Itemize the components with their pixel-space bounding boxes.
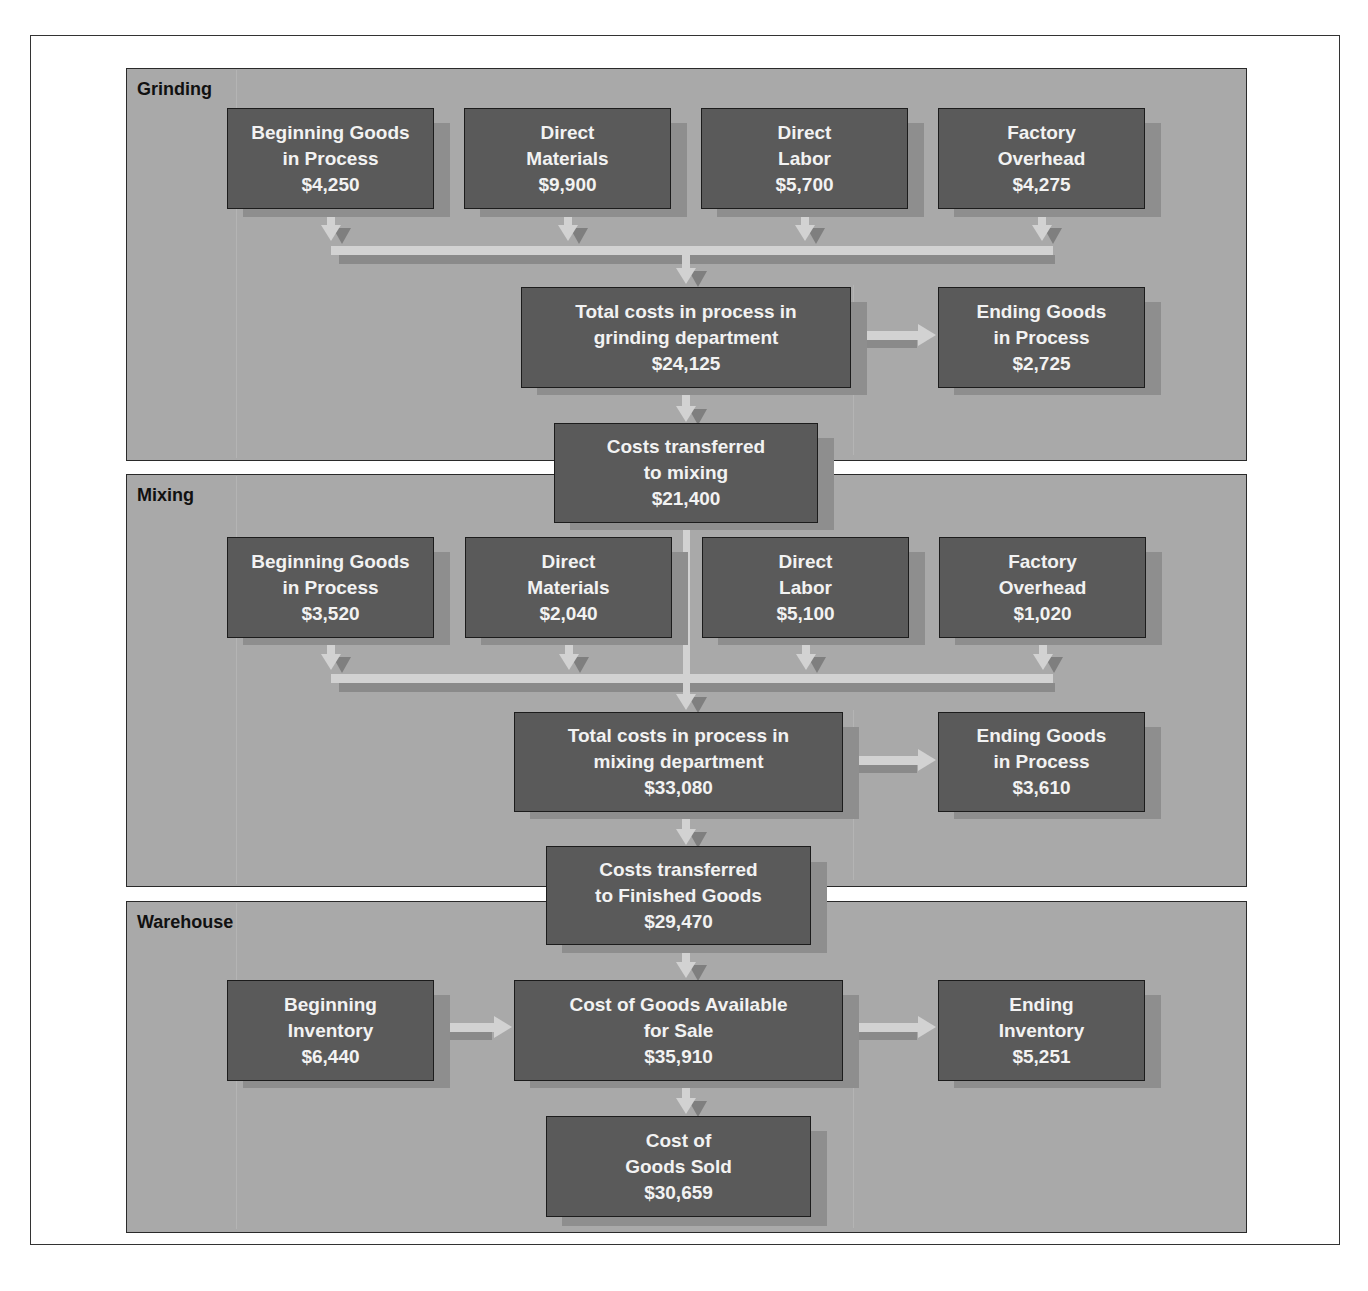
collector-bar xyxy=(331,246,1053,255)
mixing-beginning-goods-box: Beginning Goods in Process $3,520 xyxy=(227,537,434,638)
collector-bar xyxy=(331,674,1053,683)
panel-title-warehouse: Warehouse xyxy=(137,912,233,933)
transfer-to-mixing-box: Costs transferred to mixing $21,400 xyxy=(554,423,818,523)
box-label-line2: grinding department xyxy=(522,325,850,351)
grinding-direct-materials-box: Direct Materials $9,900 xyxy=(464,108,671,209)
box-label-line1: Direct xyxy=(466,549,671,575)
arrow-down-icon xyxy=(795,225,815,241)
arrow-down-icon xyxy=(321,654,341,670)
box-label-line1: Costs transferred xyxy=(555,434,817,460)
box-label-line1: Factory xyxy=(940,549,1145,575)
arrow-right-icon xyxy=(918,749,936,771)
box-label-line1: Costs transferred xyxy=(547,857,810,883)
box-label-line2: Overhead xyxy=(939,146,1144,172)
beginning-inventory-box: Beginning Inventory $6,440 xyxy=(227,980,434,1081)
arrow-right-icon xyxy=(918,324,936,346)
box-label-line1: Direct xyxy=(702,120,907,146)
arrow-down-icon xyxy=(676,268,696,284)
box-label-line1: Cost of xyxy=(547,1128,810,1154)
mixing-factory-overhead-box: Factory Overhead $1,020 xyxy=(939,537,1146,638)
arrow-down-icon xyxy=(676,406,696,422)
box-label-line2: to mixing xyxy=(555,460,817,486)
box-label-line2: Inventory xyxy=(228,1018,433,1044)
box-amount: $4,250 xyxy=(228,172,433,198)
ending-inventory-box: Ending Inventory $5,251 xyxy=(938,980,1145,1081)
arrow-down-icon xyxy=(559,654,579,670)
box-label-line2: mixing department xyxy=(515,749,842,775)
box-label-line1: Ending xyxy=(939,992,1144,1018)
collector-bar-shadow xyxy=(339,255,1055,264)
box-label-line1: Total costs in process in xyxy=(522,299,850,325)
box-amount: $1,020 xyxy=(940,601,1145,627)
arrow-down-icon xyxy=(558,225,578,241)
box-label-line2: in Process xyxy=(228,575,433,601)
box-amount: $9,900 xyxy=(465,172,670,198)
arrow-down-icon xyxy=(1033,654,1053,670)
mixing-direct-labor-box: Direct Labor $5,100 xyxy=(702,537,909,638)
box-amount: $6,440 xyxy=(228,1044,433,1070)
arrow-down-icon xyxy=(676,1098,696,1114)
goods-available-for-sale-box: Cost of Goods Available for Sale $35,910 xyxy=(514,980,843,1081)
box-label-line2: Labor xyxy=(703,575,908,601)
arrow-down-icon xyxy=(676,962,696,978)
box-amount: $5,100 xyxy=(703,601,908,627)
mixing-total-costs-box: Total costs in process in mixing departm… xyxy=(514,712,843,812)
box-label-line1: Cost of Goods Available xyxy=(515,992,842,1018)
box-amount: $35,910 xyxy=(515,1044,842,1070)
box-label-line1: Beginning Goods xyxy=(228,120,433,146)
box-amount: $4,275 xyxy=(939,172,1144,198)
box-label-line2: Materials xyxy=(465,146,670,172)
box-amount: $2,725 xyxy=(939,351,1144,377)
box-amount: $3,610 xyxy=(939,775,1144,801)
box-amount: $3,520 xyxy=(228,601,433,627)
box-amount: $30,659 xyxy=(547,1180,810,1206)
box-label-line1: Total costs in process in xyxy=(515,723,842,749)
arrow-down-icon xyxy=(796,654,816,670)
box-amount: $29,470 xyxy=(547,909,810,935)
grinding-direct-labor-box: Direct Labor $5,700 xyxy=(701,108,908,209)
arrow-down-icon xyxy=(1032,225,1052,241)
box-amount: $5,251 xyxy=(939,1044,1144,1070)
box-amount: $33,080 xyxy=(515,775,842,801)
box-label-line1: Direct xyxy=(703,549,908,575)
arrow-right-icon xyxy=(494,1016,512,1038)
mixing-direct-materials-box: Direct Materials $2,040 xyxy=(465,537,672,638)
box-label-line1: Ending Goods xyxy=(939,723,1144,749)
box-amount: $21,400 xyxy=(555,486,817,512)
box-amount: $24,125 xyxy=(522,351,850,377)
arrow-right-icon xyxy=(918,1016,936,1038)
transfer-to-finished-goods-box: Costs transferred to Finished Goods $29,… xyxy=(546,846,811,945)
collector-bar-shadow xyxy=(339,683,1055,692)
box-label-line2: in Process xyxy=(939,749,1144,775)
box-label-line2: Materials xyxy=(466,575,671,601)
box-label-line2: in Process xyxy=(939,325,1144,351)
box-amount: $5,700 xyxy=(702,172,907,198)
box-label-line1: Beginning Goods xyxy=(228,549,433,575)
box-label-line2: in Process xyxy=(228,146,433,172)
box-label-line2: Inventory xyxy=(939,1018,1144,1044)
grinding-beginning-goods-box: Beginning Goods in Process $4,250 xyxy=(227,108,434,209)
box-label-line1: Direct xyxy=(465,120,670,146)
arrow-down-icon xyxy=(676,694,696,710)
mixing-ending-goods-box: Ending Goods in Process $3,610 xyxy=(938,712,1145,812)
box-label-line2: Goods Sold xyxy=(547,1154,810,1180)
grinding-total-costs-box: Total costs in process in grinding depar… xyxy=(521,287,851,388)
cost-of-goods-sold-box: Cost of Goods Sold $30,659 xyxy=(546,1116,811,1217)
box-label-line2: Overhead xyxy=(940,575,1145,601)
panel-title-mixing: Mixing xyxy=(137,485,194,506)
grinding-ending-goods-box: Ending Goods in Process $2,725 xyxy=(938,287,1145,388)
panel-title-grinding: Grinding xyxy=(137,79,212,100)
grinding-factory-overhead-box: Factory Overhead $4,275 xyxy=(938,108,1145,209)
arrow-down-icon xyxy=(676,829,696,845)
box-label-line1: Ending Goods xyxy=(939,299,1144,325)
box-label-line2: to Finished Goods xyxy=(547,883,810,909)
box-label-line1: Factory xyxy=(939,120,1144,146)
box-amount: $2,040 xyxy=(466,601,671,627)
box-label-line2: for Sale xyxy=(515,1018,842,1044)
box-label-line1: Beginning xyxy=(228,992,433,1018)
box-label-line2: Labor xyxy=(702,146,907,172)
arrow-down-icon xyxy=(321,225,341,241)
